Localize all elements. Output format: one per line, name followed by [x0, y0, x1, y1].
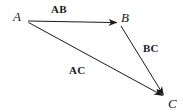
- vector-diagram-canvas: [0, 0, 183, 112]
- vector-label-ac: AC: [69, 65, 85, 76]
- vector-label-bc: BC: [143, 43, 159, 54]
- vector-arrow-ab: [28, 21, 117, 23]
- vertex-label-b: B: [121, 11, 129, 24]
- vector-arrow-ac: [29, 23, 163, 96]
- vertex-label-c: C: [168, 97, 177, 110]
- vector-triangle-figure: A B C AB BC AC: [0, 0, 183, 112]
- vector-label-ab: AB: [51, 4, 67, 15]
- vertex-label-a: A: [13, 10, 21, 23]
